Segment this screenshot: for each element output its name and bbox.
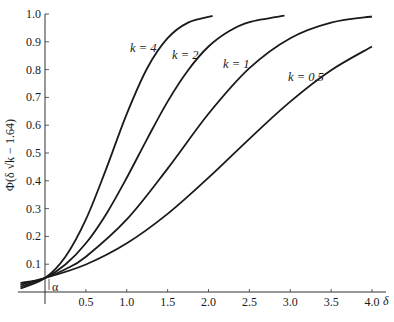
y-tick-label: 0.7 bbox=[26, 90, 41, 104]
x-tick-label: 0.5 bbox=[78, 295, 93, 309]
x-tick-label: 3.0 bbox=[283, 295, 298, 309]
y-tick-label: 0.3 bbox=[26, 202, 41, 216]
y-tick-label: 0.8 bbox=[26, 63, 41, 77]
x-tick-label: 3.5 bbox=[324, 295, 339, 309]
x-axis-title: δ bbox=[383, 294, 389, 308]
curve-label-k2: k = 2 bbox=[172, 48, 198, 62]
x-tick-label: 4.0 bbox=[365, 295, 380, 309]
y-tick-label: 0.9 bbox=[26, 35, 41, 49]
y-tick-label: 0.6 bbox=[26, 118, 41, 132]
y-ticks: 0.10.20.30.40.50.60.70.80.91.0 bbox=[26, 7, 49, 271]
y-tick-label: 0.1 bbox=[26, 257, 41, 271]
y-tick-label: 0.4 bbox=[26, 174, 41, 188]
y-tick-label: 0.2 bbox=[26, 229, 41, 243]
y-tick-label: 0.5 bbox=[26, 146, 41, 160]
curve-label-k4: k = 4 bbox=[130, 41, 156, 55]
x-tick-label: 1.5 bbox=[160, 295, 175, 309]
x-tick-label: 2.5 bbox=[242, 295, 257, 309]
y-axis-title: Φ(δ √k − 1.64) bbox=[3, 119, 17, 191]
x-tick-label: 1.0 bbox=[119, 295, 134, 309]
curve-label-k1: k = 1 bbox=[223, 57, 249, 71]
power-curve-chart: 0.10.20.30.40.50.60.70.80.91.0 0.51.01.5… bbox=[0, 0, 394, 322]
curve-label-k05: k = 0.5 bbox=[288, 70, 324, 84]
x-tick-label: 2.0 bbox=[201, 295, 216, 309]
alpha-label: α bbox=[52, 280, 59, 294]
y-tick-label: 1.0 bbox=[26, 7, 41, 21]
